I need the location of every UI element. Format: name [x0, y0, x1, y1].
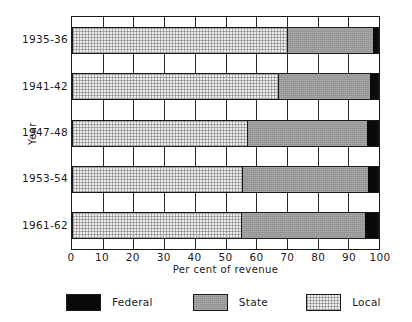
bar-segment-state: [242, 166, 368, 193]
x-tick-label: 20: [126, 251, 140, 263]
x-tick-label: 40: [188, 251, 202, 263]
x-tick-label: 90: [342, 251, 356, 263]
x-tick-label: 10: [95, 251, 109, 263]
category-axis-labels: 1935-361941-421947-481953-541961-62: [4, 0, 68, 322]
bar-row: [72, 212, 379, 239]
category-label: 1961-62: [10, 219, 68, 231]
plot-area: [71, 16, 380, 250]
legend-item-local: Local: [306, 294, 381, 311]
bar-segment-local: [72, 212, 241, 239]
legend-item-federal: Federal: [66, 294, 153, 311]
bar-segment-federal: [370, 73, 379, 100]
legend-swatch-federal: [66, 294, 101, 311]
x-axis-title: Per cent of revenue: [71, 264, 380, 275]
bar-row: [72, 120, 379, 147]
bar-row: [72, 73, 379, 100]
bar-segment-local: [72, 73, 278, 100]
legend-label-local: Local: [352, 296, 381, 308]
category-label: 1935-36: [10, 33, 68, 45]
bar-segment-state: [287, 27, 373, 54]
bar-segment-federal: [368, 166, 379, 193]
category-label: 1941-42: [10, 80, 68, 92]
x-tick-label: 30: [157, 251, 171, 263]
bar-segment-local: [72, 27, 287, 54]
chart-figure: Year 1935-361941-421947-481953-541961-62…: [0, 0, 412, 322]
x-tick-label: 80: [311, 251, 325, 263]
x-tick-label: 70: [280, 251, 294, 263]
legend-label-federal: Federal: [112, 296, 153, 308]
x-tick-label: 50: [219, 251, 233, 263]
bar-segment-federal: [367, 120, 379, 147]
bar-series-group: [72, 17, 379, 249]
bar-row: [72, 166, 379, 193]
category-label: 1947-48: [10, 126, 68, 138]
x-tick-label: 0: [68, 251, 75, 263]
bar-segment-local: [72, 166, 242, 193]
legend-label-state: State: [239, 296, 268, 308]
bar-segment-federal: [365, 212, 379, 239]
legend-swatch-local: [306, 294, 341, 311]
bar-row: [72, 27, 379, 54]
legend-item-state: State: [193, 294, 268, 311]
bar-segment-local: [72, 120, 247, 147]
legend-swatch-state: [193, 294, 228, 311]
bar-segment-federal: [373, 27, 379, 54]
x-tick-label: 100: [370, 251, 391, 263]
bar-segment-state: [241, 212, 365, 239]
bar-segment-state: [247, 120, 367, 147]
chart-legend: Federal State Local: [66, 289, 396, 315]
x-tick-label: 60: [249, 251, 263, 263]
bar-segment-state: [278, 73, 370, 100]
category-label: 1953-54: [10, 172, 68, 184]
